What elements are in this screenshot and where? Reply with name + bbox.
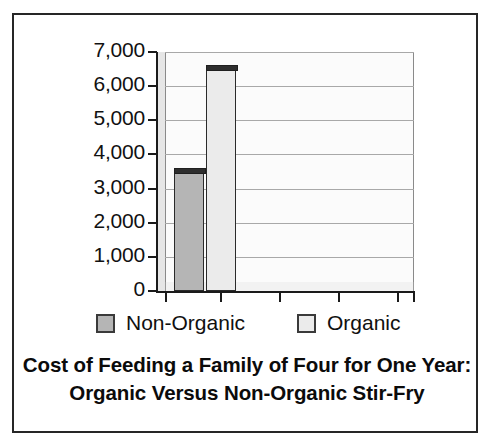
chart-legend: Non-Organic Organic	[14, 305, 480, 351]
x-axis-tick	[413, 293, 415, 302]
chart-title-line-1: Cost of Feeding a Family of Four for One…	[22, 351, 472, 379]
bar-organic	[206, 69, 236, 291]
y-axis-tick	[148, 256, 157, 258]
y-axis-tick	[148, 153, 157, 155]
y-axis-tick-label: 7,000	[17, 38, 145, 62]
y-axis-tick	[148, 85, 157, 87]
chart-title-line-2: Organic Versus Non-Organic Stir-Fry	[22, 379, 472, 407]
legend-label-organic: Organic	[327, 311, 401, 335]
x-axis-tick	[338, 293, 340, 302]
plot-region: 01,0002,0003,0004,0005,0006,0007,000	[14, 23, 480, 305]
legend-entry-organic: Organic	[297, 311, 401, 335]
x-axis-tick	[279, 293, 281, 302]
y-axis-tick-label: 1,000	[17, 243, 145, 267]
chart-figure: 01,0002,0003,0004,0005,0006,0007,000 Non…	[12, 13, 478, 433]
y-axis-tick-label: 5,000	[17, 106, 145, 130]
y-axis-tick-labels: 01,0002,0003,0004,0005,0006,0007,000	[14, 23, 145, 305]
y-axis-tick-label: 4,000	[17, 140, 145, 164]
y-axis-tick	[148, 119, 157, 121]
x-axis-tick	[165, 293, 167, 302]
gridline	[165, 52, 414, 53]
y-axis-tick-label: 2,000	[17, 209, 145, 233]
bar-top-face	[174, 168, 206, 174]
legend-entry-non-organic: Non-Organic	[96, 311, 245, 335]
y-axis-tick	[148, 188, 157, 190]
y-axis-tick	[148, 222, 157, 224]
legend-label-non-organic: Non-Organic	[126, 311, 245, 335]
y-axis-tick-label: 0	[17, 277, 145, 301]
bar-top-face	[206, 65, 238, 71]
y-axis-tick	[148, 290, 157, 292]
x-axis-tick	[220, 293, 222, 302]
x-axis-tick	[397, 293, 399, 302]
bar-non-organic	[174, 172, 204, 292]
gridline	[165, 86, 414, 87]
gridline	[165, 154, 414, 155]
legend-swatch-non-organic	[96, 314, 115, 333]
gridline	[165, 120, 414, 121]
y-axis-tick-label: 3,000	[17, 175, 145, 199]
y-axis-tick	[148, 51, 157, 53]
y-axis-tick-label: 6,000	[17, 72, 145, 96]
legend-swatch-organic	[297, 314, 316, 333]
chart-title: Cost of Feeding a Family of Four for One…	[22, 351, 472, 408]
x-axis-line	[156, 291, 415, 293]
